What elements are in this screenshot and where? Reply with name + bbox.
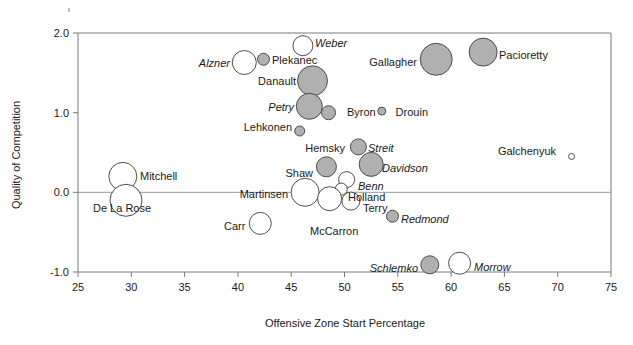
bubble-davidson[interactable] — [359, 152, 383, 176]
bubble-gallagher[interactable] — [420, 43, 452, 75]
y-tick-label: 2.0 — [54, 27, 69, 39]
bubble-weber[interactable] — [293, 36, 313, 56]
x-tick-label: 60 — [445, 281, 457, 293]
label-pacioretty: Pacioretty — [499, 49, 548, 61]
x-tick-label: 55 — [392, 281, 404, 293]
y-tick-label: 1.0 — [54, 107, 69, 119]
bubble-plekanec[interactable] — [258, 53, 270, 65]
x-tick-label: 75 — [605, 281, 617, 293]
label-alzner: Alzner — [198, 57, 232, 69]
label-hemsky: Hemsky — [305, 142, 345, 154]
label-drouin: Drouin — [396, 106, 428, 118]
x-tick-label: 65 — [498, 281, 510, 293]
x-tick-label: 35 — [178, 281, 190, 293]
x-axis-title: Offensive Zone Start Percentage — [265, 317, 425, 329]
label-shaw: Shaw — [285, 167, 313, 179]
bubble-redmond[interactable] — [387, 210, 399, 222]
x-tick-label: 30 — [125, 281, 137, 293]
label-mitchell: Mitchell — [140, 170, 177, 182]
label-schlemko: Schlemko — [370, 262, 418, 274]
bubble-pacioretty[interactable] — [469, 38, 497, 66]
label-byron: Byron — [347, 106, 376, 118]
bubble-petry[interactable] — [296, 93, 322, 119]
bubble-carr[interactable] — [249, 212, 271, 234]
bubble-galchenyuk[interactable] — [569, 154, 575, 160]
bubble-schlemko[interactable] — [421, 256, 439, 274]
x-tick-label: 45 — [285, 281, 297, 293]
x-tick-label: 70 — [552, 281, 564, 293]
bubble-chart-page: 25303540455055606570752.01.00.0-1.0 Webe… — [0, 0, 633, 345]
bubble-danault[interactable] — [298, 66, 328, 96]
label-weber: Weber — [315, 37, 349, 49]
y-tick-label: 0.0 — [54, 186, 69, 198]
label-streit: Streit — [368, 142, 395, 154]
bubble-hemsky[interactable] — [350, 139, 366, 155]
decorative-speck — [68, 8, 70, 12]
label-carr: Carr — [224, 220, 246, 232]
label-danault: Danault — [258, 75, 296, 87]
bubble-drouin[interactable] — [378, 107, 386, 115]
label-galchenyuk: Galchenyuk — [498, 145, 557, 157]
label-davidson: Davidson — [382, 162, 428, 174]
label-gallagher: Gallagher — [369, 56, 417, 68]
bubble-mccarron[interactable] — [318, 187, 342, 211]
label-plekanec: Plekanec — [272, 54, 318, 66]
x-tick-label: 50 — [338, 281, 350, 293]
label-terry: Terry — [363, 202, 388, 214]
label-de-la-rose: De La Rose — [93, 202, 151, 214]
bubble-martinsen[interactable] — [291, 178, 319, 206]
label-morrow: Morrow — [474, 261, 512, 273]
label-martinsen: Martinsen — [240, 188, 288, 200]
label-petry: Petry — [268, 101, 295, 113]
y-axis-title: Quality of Competition — [10, 101, 22, 209]
label-lehkonen: Lehkonen — [244, 121, 292, 133]
label-mccarron: McCarron — [310, 225, 358, 237]
bubble-lehkonen[interactable] — [295, 126, 305, 136]
y-tick-label: -1.0 — [50, 266, 69, 278]
label-redmond: Redmond — [401, 213, 450, 225]
x-tick-label: 25 — [72, 281, 84, 293]
bubble-morrow[interactable] — [449, 252, 471, 274]
bubble-alzner[interactable] — [232, 51, 256, 75]
bubble-byron[interactable] — [322, 106, 336, 120]
scatter-plot: 25303540455055606570752.01.00.0-1.0 Webe… — [0, 0, 633, 345]
x-tick-label: 40 — [232, 281, 244, 293]
bubble-shaw[interactable] — [316, 157, 336, 177]
